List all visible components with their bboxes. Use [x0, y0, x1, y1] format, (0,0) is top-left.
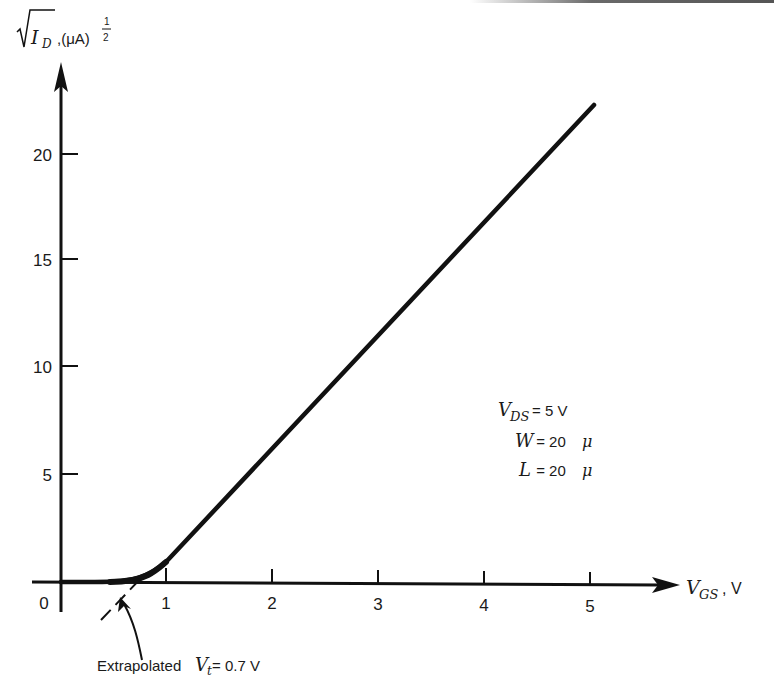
- y-axis: 5 10 15 20: [33, 62, 78, 612]
- x-tick-label-5: 5: [585, 597, 594, 616]
- y-label-sub: D: [41, 37, 52, 51]
- vds-val: = 5 V: [532, 402, 567, 419]
- vt-annotation-arrow: [118, 597, 142, 660]
- y-tick-label-15: 15: [33, 251, 52, 270]
- w-unit: μ: [582, 432, 592, 451]
- x-tick-label-1: 1: [161, 594, 170, 613]
- y-label-exp-num: 1: [104, 16, 110, 27]
- l-var: L: [518, 459, 531, 480]
- w-val: = 20: [532, 433, 570, 450]
- chart-svg: 5 10 15 20 I D ,(μA) 1 2 1 2 3 4 5 0 V G…: [0, 0, 774, 694]
- x-label-unit: , V: [722, 580, 742, 597]
- y-tick-label-20: 20: [33, 146, 52, 165]
- x-axis-label: V GS , V: [686, 576, 742, 602]
- sqrt-id-curve: [61, 105, 594, 582]
- y-tick-label-5: 5: [43, 466, 52, 485]
- vds-sub: DS: [509, 409, 529, 424]
- y-label-exp-den: 2: [103, 32, 109, 43]
- curve-knee: [110, 562, 166, 582]
- y-label-var: I: [30, 26, 39, 48]
- x-tick-label-4: 4: [479, 596, 488, 615]
- extrap-prefix: Extrapolated: [97, 657, 181, 674]
- x-tick-label-2: 2: [267, 594, 276, 613]
- l-val: = 20: [532, 462, 570, 479]
- vt-annotation-label: Extrapolated V t = 0.7 V: [97, 654, 260, 678]
- l-unit: μ: [582, 461, 592, 480]
- x-tick-label-3: 3: [373, 595, 382, 614]
- arrowhead-icon: [118, 597, 131, 612]
- x-axis: 1 2 3 4 5 0: [32, 568, 680, 616]
- extrap-val: = 0.7 V: [212, 657, 260, 674]
- origin-label: 0: [39, 594, 48, 613]
- x-label-sub: GS: [699, 587, 718, 602]
- y-tick-label-10: 10: [33, 358, 52, 377]
- chart: 5 10 15 20 I D ,(μA) 1 2 1 2 3 4 5 0 V G…: [0, 0, 774, 694]
- y-label-unit: ,(μA): [57, 30, 90, 47]
- y-axis-label: I D ,(μA) 1 2: [17, 10, 111, 51]
- parameters-block: V DS = 5 V W = 20 μ L = 20 μ: [498, 399, 592, 480]
